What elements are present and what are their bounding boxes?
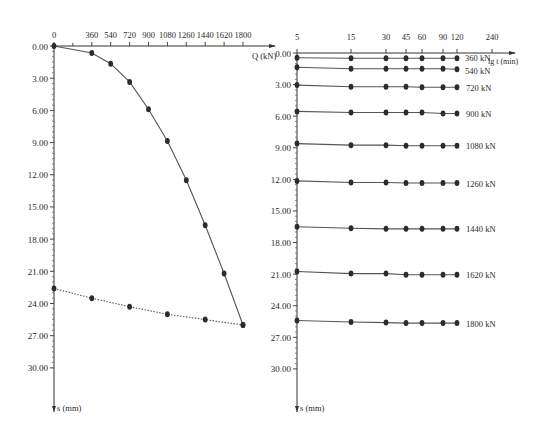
settlement-time-chart: 51530456090120240lg t (min)0.003.006.009… <box>271 32 519 413</box>
series-label: 1260 kN <box>466 179 496 189</box>
data-point <box>404 109 409 115</box>
data-point <box>420 180 425 186</box>
y-tick-label: 6.00 <box>32 106 48 116</box>
series-label: 1620 kN <box>466 270 496 280</box>
q-axis-label: Q (kN) <box>252 51 276 61</box>
settlement-line <box>297 181 457 183</box>
x-tick-label: 90 <box>439 32 448 42</box>
y-tick-label: 30.00 <box>28 363 49 373</box>
data-point <box>295 178 300 184</box>
y-tick-label: 9.00 <box>32 138 48 148</box>
data-point <box>455 66 460 72</box>
figure: 036054072090010801260144016201800Q (kN)0… <box>0 0 548 437</box>
data-point <box>404 143 409 149</box>
data-point <box>455 320 460 326</box>
y-tick-label: 6.00 <box>275 112 291 122</box>
x-tick-label: 1800 <box>235 30 252 40</box>
settlement-line <box>297 144 457 146</box>
load-settlement-chart: 036054072090010801260144016201800Q (kN)0… <box>28 30 277 413</box>
data-point <box>404 55 409 61</box>
left-y-axis-label: s (mm) <box>57 403 81 413</box>
time-axis-label: lg t (min) <box>488 57 519 66</box>
data-point <box>384 66 389 72</box>
data-point <box>441 180 446 186</box>
data-point <box>455 84 460 90</box>
x-tick-label: 720 <box>123 30 136 40</box>
y-tick-label: 24.00 <box>28 299 49 309</box>
x-tick-label: 1620 <box>216 30 233 40</box>
data-point <box>184 177 189 183</box>
data-point <box>455 55 460 61</box>
y-tick-label: 30.00 <box>271 364 292 374</box>
x-tick-label: 120 <box>451 32 464 42</box>
y-tick-label: 21.00 <box>271 270 292 280</box>
y-tick-label: 0.00 <box>32 42 48 52</box>
settlement-line <box>297 321 457 324</box>
data-point <box>455 272 460 278</box>
data-point <box>384 142 389 148</box>
data-point <box>441 66 446 72</box>
data-point <box>295 268 300 274</box>
x-tick-label: 1260 <box>178 30 195 40</box>
x-tick-label: 60 <box>418 32 427 42</box>
data-point <box>295 55 300 61</box>
data-point <box>384 180 389 186</box>
data-point <box>455 111 460 117</box>
data-point <box>295 141 300 147</box>
dotted-curve <box>54 289 243 326</box>
data-point <box>441 143 446 149</box>
x-tick-label: 30 <box>382 32 391 42</box>
x-tick-label: 15 <box>347 32 356 42</box>
y-tick-label: 15.00 <box>28 202 49 212</box>
y-tick-label: 27.00 <box>28 331 49 341</box>
series-label: 1080 kN <box>466 141 496 151</box>
data-point <box>295 108 300 114</box>
data-point <box>420 55 425 61</box>
data-point <box>420 226 425 232</box>
data-point <box>295 224 300 230</box>
y-tick-label: 12.00 <box>271 175 292 185</box>
data-point <box>127 79 132 85</box>
data-point <box>295 82 300 88</box>
x-tick-label: 1080 <box>159 30 176 40</box>
settlement-line <box>297 58 457 59</box>
data-point <box>349 84 354 90</box>
settlement-line <box>297 227 457 229</box>
data-point <box>349 66 354 72</box>
data-point <box>349 55 354 61</box>
arrow-right-icon <box>509 51 516 55</box>
x-tick-label: 900 <box>142 30 155 40</box>
data-point <box>420 272 425 278</box>
data-point <box>420 84 425 90</box>
data-point <box>295 64 300 70</box>
data-point <box>222 270 227 276</box>
data-point <box>384 226 389 232</box>
y-tick-label: 0.00 <box>275 49 291 59</box>
data-point <box>420 109 425 115</box>
data-point <box>384 55 389 61</box>
x-tick-label: 360 <box>85 30 98 40</box>
data-point <box>404 84 409 90</box>
settlement-line <box>297 67 457 69</box>
y-tick-label: 18.00 <box>271 238 292 248</box>
y-tick-label: 3.00 <box>275 80 291 90</box>
settlement-line <box>297 85 457 87</box>
data-point <box>455 180 460 186</box>
data-point <box>349 319 354 325</box>
arrow-right-icon <box>269 44 276 48</box>
data-point <box>349 271 354 277</box>
q-s-curve <box>54 46 243 325</box>
data-point <box>384 84 389 90</box>
data-point <box>52 285 57 291</box>
series-label: 540 kN <box>465 66 490 76</box>
series-label: 720 kN <box>466 83 491 93</box>
data-point <box>52 43 57 49</box>
data-point <box>203 222 208 228</box>
y-tick-label: 24.00 <box>271 301 292 311</box>
data-point <box>441 84 446 90</box>
data-point <box>203 317 208 323</box>
series-label: 1800 kN <box>466 319 496 329</box>
data-point <box>420 143 425 149</box>
y-tick-label: 12.00 <box>28 170 49 180</box>
y-tick-label: 9.00 <box>275 143 291 153</box>
